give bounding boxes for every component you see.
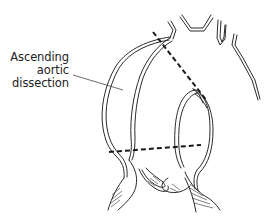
lower-resection-line xyxy=(109,145,201,152)
upper-resection-line xyxy=(153,32,207,101)
illustration xyxy=(0,0,273,216)
true-lumen-wall xyxy=(129,38,172,160)
aortic-root xyxy=(108,160,190,210)
ascending-aortic-dissection-label: Ascending aortic dissection xyxy=(10,51,69,90)
aortic-dissection-diagram: Ascending aortic dissection xyxy=(0,0,273,216)
supra-aortic-branches xyxy=(168,15,260,100)
label-leader-line xyxy=(73,75,123,90)
label-line-3: dissection xyxy=(10,77,69,90)
ascending-aorta-right xyxy=(175,89,213,190)
left-ventricular-outflow xyxy=(185,172,220,212)
